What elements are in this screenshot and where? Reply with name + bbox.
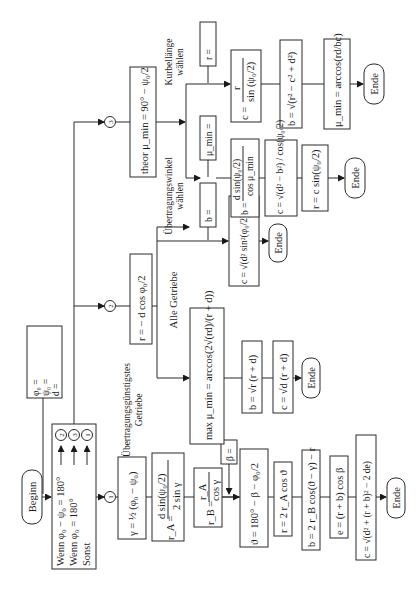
svg-text:Ende: Ende <box>306 367 317 389</box>
branch1-theta-box: ϑ = 180° − β − φ₀/2 <box>240 449 268 547</box>
branch2-label-all: Alle Getriebe <box>168 271 179 328</box>
flowchart-svg: Beginn φ₀ = ψ₀ = d = Wenn φ₀ − ψ₀ = 180°… <box>0 0 420 598</box>
branch3-label-mu-1: Übertragungswinkel <box>163 157 174 235</box>
svg-text:2: 2 <box>58 433 66 437</box>
input-phi0: φ₀ = <box>31 379 41 396</box>
svg-text:3: 3 <box>107 120 115 124</box>
svg-text:c = √(d² − b²) / cos(ψ₀/2): c = √(d² − b²) / cos(ψ₀/2) <box>275 120 286 214</box>
svg-text:r = c sin(ψ₀/2): r = c sin(ψ₀/2) <box>310 149 322 209</box>
branch3-theor-box: theor μ_min = 90° − ψ₀/2 <box>130 67 156 177</box>
svg-text:b =: b = <box>204 210 214 222</box>
svg-text:Ende: Ende <box>391 487 402 509</box>
start-terminal: Beginn <box>22 470 42 524</box>
svg-text:cos γ: cos γ <box>210 479 221 501</box>
input-psi0: ψ₀ = <box>41 379 51 396</box>
svg-text:Ende: Ende <box>273 232 284 254</box>
svg-text:d sin(ψ₀/2): d sin(ψ₀/2) <box>156 473 168 519</box>
branch2-end-best: Ende <box>302 358 320 398</box>
branch3-label-crank-2: wählen <box>175 48 185 76</box>
svg-text:cos μ_min: cos μ_min <box>245 156 255 196</box>
branch1-theta: ϑ = 180° − β − φ₀/2 <box>249 463 260 545</box>
svg-text:r =: r = <box>204 49 214 60</box>
branch2-b-best-box: b = √r (r + d) <box>242 341 262 413</box>
svg-text:1: 1 <box>84 433 92 437</box>
svg-text:μ_min = arccos(rd/bc): μ_min = arccos(rd/bc) <box>332 33 344 127</box>
svg-text:μ_min =: μ_min = <box>204 124 214 156</box>
branch1-rB-box: r_B = r_A cos γ <box>194 468 222 527</box>
branch2-label-best-1: Übertragungsgünstigstes <box>121 363 132 457</box>
inputs-box: φ₀ = ψ₀ = d = <box>27 326 62 398</box>
branch3-mu-crank-box: μ_min = arccos(rd/bc) <box>324 33 350 129</box>
input-d: d = <box>51 384 61 396</box>
svg-text:b = √r (r + d): b = √r (r + d) <box>247 354 259 410</box>
branch3-end-mu: Ende <box>345 158 365 198</box>
svg-text:r_A: r_A <box>197 483 208 500</box>
branch3-b-crank-box: b = √(r² − c² + d²) <box>280 40 302 128</box>
svg-text:2 sin γ: 2 sin γ <box>171 482 182 510</box>
branch3-b-mu-box: b = d sin(ψ₀/2) cos μ_min <box>231 139 259 217</box>
decision-case-1: Wenn φ₀ − ψ₀ = 180° <box>55 477 66 566</box>
branch3-c-crank-box: c = r sin (ψ₀/2) <box>231 50 261 122</box>
branch3-c-mu-box: c = √(d² − b²) / cos(ψ₀/2) <box>265 120 297 216</box>
branch1-end-terminal: Ende <box>387 478 405 518</box>
branch2-b-input: b = <box>200 183 216 227</box>
branch3-theor: theor μ_min = 90° − ψ₀/2 <box>139 67 150 174</box>
branch1-b-box: b = 2 r_B cos(ϑ − γ) − r <box>302 447 320 550</box>
svg-text:b = √(r² − c² + d²): b = √(r² − c² + d²) <box>286 51 298 126</box>
svg-text:b =: b = <box>240 203 250 215</box>
branch2-label-best-2: Getriebe <box>134 394 144 427</box>
svg-text:c =: c = <box>239 107 250 120</box>
branch3-mu-input: μ_min = <box>200 116 216 160</box>
svg-text:c = √d (r + d): c = √d (r + d) <box>278 353 290 410</box>
svg-text:r: r <box>231 86 242 90</box>
branch3-end-crank: Ende <box>364 64 384 104</box>
flowchart-canvas: Beginn φ₀ = ψ₀ = d = Wenn φ₀ − ψ₀ = 180°… <box>0 0 420 598</box>
svg-text:sin (ψ₀/2): sin (ψ₀/2) <box>245 61 257 102</box>
branch2-end-all: Ende <box>269 224 287 262</box>
decision-case-2: Wenn φ₀ = 180° <box>68 498 79 566</box>
branch2-r-box: r = − d cos φ₀/2 <box>130 254 152 344</box>
svg-text:max μ_min = arccos(2√(rd)/(r +: max μ_min = arccos(2√(rd)/(r + d)) <box>203 290 215 440</box>
branch1-c-box: c = √(d² + (r + b)² − 2 de) <box>356 435 376 560</box>
svg-text:b = 2 r_B cos(ϑ − γ) − r: b = 2 r_B cos(ϑ − γ) − r <box>306 447 318 547</box>
svg-text:d sin(ψ₀/2): d sin(ψ₀/2) <box>232 159 243 200</box>
branch1-gamma-box: γ = ½ (φ₀ − ψ₀) <box>118 457 146 539</box>
branch1-r-box: r = 2 r_A cos ϑ <box>274 462 292 536</box>
branch1-rA-box: r_A = d sin(ψ₀/2) 2 sin γ <box>152 453 184 541</box>
svg-text:e = (r + b) cos β: e = (r + b) cos β <box>334 468 346 535</box>
branch2-mu-max-box: max μ_min = arccos(2√(rd)/(r + d)) <box>190 290 224 444</box>
svg-text:Ende: Ende <box>350 167 361 189</box>
svg-text:β =: β = <box>225 448 235 461</box>
decision-case-3: Sonst <box>81 543 92 566</box>
svg-text:r_B =: r_B = <box>205 501 216 525</box>
branch3-r-input: r = <box>200 22 216 66</box>
branch2-c-best-box: c = √d (r + d) <box>273 341 293 413</box>
svg-text:3: 3 <box>71 433 79 437</box>
branch3-label-mu-2: wählen <box>175 182 185 210</box>
branch1-gamma: γ = ½ (φ₀ − ψ₀) <box>127 471 139 537</box>
decision-box: Wenn φ₀ − ψ₀ = 180° Wenn φ₀ = 180° Sonst… <box>52 424 96 569</box>
svg-text:1: 1 <box>107 495 115 499</box>
branch2-r: r = − d cos φ₀/2 <box>136 275 147 341</box>
svg-text:Ende: Ende <box>369 73 380 95</box>
svg-text:r = 2 r_A cos ϑ: r = 2 r_A cos ϑ <box>278 469 289 533</box>
branch3-r-mu-box: r = c sin(ψ₀/2) <box>302 145 328 211</box>
branch3-label-crank-1: Kurbellänge <box>164 39 174 86</box>
start-label: Beginn <box>27 481 38 512</box>
branch1-e-box: e = (r + b) cos β <box>330 456 348 538</box>
svg-text:c = √(d² + (r + b)² − 2 de): c = √(d² + (r + b)² − 2 de) <box>362 461 373 558</box>
svg-text:2: 2 <box>107 304 115 308</box>
